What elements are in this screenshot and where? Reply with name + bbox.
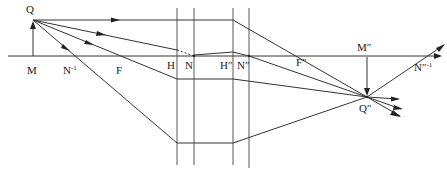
nodal-point-n [193,55,195,57]
ray-bottom [33,20,445,143]
label-n2-minus1: N″-1 [414,61,433,73]
ray-diagram: Q M N-1 F H N H″ N″ F″ M″ Q″ N″-1 [0,0,447,182]
label-h2: H″ [220,59,233,71]
label-q: Q [26,3,34,15]
image-arrow [364,57,370,96]
label-n: N [185,59,193,71]
label-h: H [167,59,175,71]
ray-nodal [33,20,403,110]
object-arrow [30,21,36,56]
label-q2: Q″ [359,102,372,114]
nodal-point-n2 [248,55,250,57]
image-point [366,96,369,99]
principal-planes [177,8,249,168]
label-n2: N″ [237,59,250,71]
label-n-minus1: N-1 [63,64,77,76]
label-f2: F″ [296,56,307,68]
label-m: M [27,64,37,76]
label-f: F [116,64,122,76]
label-m2: M″ [357,41,371,53]
